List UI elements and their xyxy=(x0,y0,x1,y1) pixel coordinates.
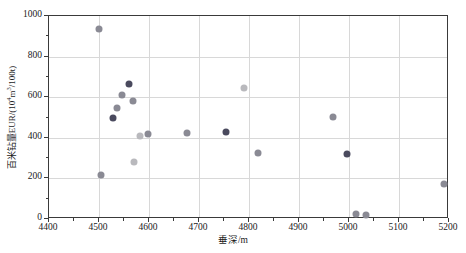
x-axis-minor-tick xyxy=(223,218,224,221)
y-axis-tick xyxy=(44,137,48,138)
gridline-horizontal xyxy=(49,178,447,179)
y-axis-minor-tick xyxy=(46,198,49,199)
data-point xyxy=(109,114,116,121)
x-axis-minor-tick xyxy=(323,218,324,221)
data-point xyxy=(126,81,133,88)
gridline-vertical xyxy=(399,16,400,217)
data-point xyxy=(352,210,359,217)
y-axis-tick xyxy=(44,218,48,219)
x-axis-minor-tick xyxy=(73,218,74,221)
x-axis-minor-tick xyxy=(423,218,424,221)
x-axis-tick-label: 4700 xyxy=(176,222,220,233)
gridline-horizontal xyxy=(49,97,447,98)
gridline-vertical xyxy=(299,16,300,217)
y-axis-minor-tick xyxy=(46,76,49,77)
gridline-vertical xyxy=(349,16,350,217)
x-axis-tick-label: 5100 xyxy=(376,222,420,233)
data-point xyxy=(330,113,337,120)
plot-area xyxy=(48,15,448,218)
x-axis-tick-label: 4500 xyxy=(76,222,120,233)
data-point xyxy=(240,85,247,92)
data-point xyxy=(96,25,103,32)
y-axis-tick xyxy=(44,96,48,97)
x-axis-tick-label: 4400 xyxy=(26,222,70,233)
y-axis-tick-label: 0 xyxy=(6,212,42,223)
data-point xyxy=(183,129,190,136)
data-point xyxy=(254,149,261,156)
y-axis-tick xyxy=(44,56,48,57)
x-axis-tick-label: 4600 xyxy=(126,222,170,233)
x-axis-tick-label: 4900 xyxy=(276,222,320,233)
y-axis-minor-tick xyxy=(46,117,49,118)
y-axis-tick-label: 200 xyxy=(6,171,42,182)
data-point xyxy=(118,91,125,98)
data-point xyxy=(145,130,152,137)
gridline-horizontal xyxy=(49,57,447,58)
data-point xyxy=(114,104,121,111)
gridline-vertical xyxy=(249,16,250,217)
y-axis-label: 百米钻量EUR/(104m3/100t) xyxy=(3,18,18,218)
gridline-horizontal xyxy=(49,138,447,139)
y-axis-tick-label: 1000 xyxy=(6,9,42,20)
y-axis-tick-label: 600 xyxy=(6,90,42,101)
y-axis-minor-tick xyxy=(46,157,49,158)
data-point xyxy=(131,158,138,165)
gridline-vertical xyxy=(99,16,100,217)
y-axis-tick xyxy=(44,177,48,178)
data-point xyxy=(343,151,350,158)
data-point xyxy=(130,97,137,104)
x-axis-label: 垂深/m xyxy=(0,234,466,246)
x-axis-minor-tick xyxy=(273,218,274,221)
x-axis-tick-label: 5000 xyxy=(326,222,370,233)
y-axis-tick-label: 400 xyxy=(6,131,42,142)
data-point xyxy=(441,180,448,187)
y-axis-tick-label: 800 xyxy=(6,50,42,61)
x-axis-minor-tick xyxy=(173,218,174,221)
data-point xyxy=(97,171,104,178)
x-axis-tick-label: 4800 xyxy=(226,222,270,233)
scatter-chart-figure: 百米钻量EUR/(104m3/100t) 垂深/m 44004500460047… xyxy=(0,0,466,253)
y-axis-minor-tick xyxy=(46,35,49,36)
gridline-vertical xyxy=(199,16,200,217)
x-axis-tick-label: 5200 xyxy=(426,222,466,233)
x-axis-minor-tick xyxy=(123,218,124,221)
x-axis-minor-tick xyxy=(373,218,374,221)
data-point xyxy=(136,132,143,139)
data-point xyxy=(223,128,230,135)
gridline-vertical xyxy=(149,16,150,217)
y-axis-tick xyxy=(44,15,48,16)
data-point xyxy=(362,211,369,218)
